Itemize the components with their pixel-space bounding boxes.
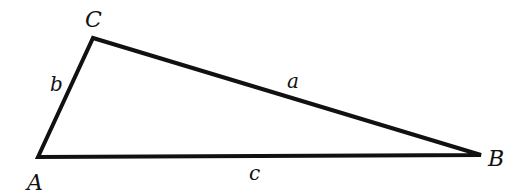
vertex-label-b: B xyxy=(487,146,504,171)
side-label-c: c xyxy=(249,161,260,185)
vertex-label-a: A xyxy=(25,170,43,193)
side-label-a: a xyxy=(287,69,299,93)
vertex-label-c: C xyxy=(85,7,102,32)
triangle-abc xyxy=(38,38,481,157)
side-label-b: b xyxy=(50,72,63,96)
triangle-diagram: C A B b a c xyxy=(0,0,526,193)
